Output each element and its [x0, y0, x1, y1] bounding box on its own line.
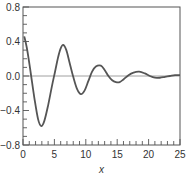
tick-labels: 0510152025−0.8−0.40.00.40.8 [0, 2, 186, 161]
chart: 0510152025−0.8−0.40.00.40.8 x [0, 0, 188, 179]
x-tick-label: 0 [20, 149, 26, 160]
y-tick-label: −0.4 [0, 105, 20, 116]
x-tick-label: 10 [80, 149, 92, 160]
x-tick-label: 15 [112, 149, 124, 160]
series [24, 36, 180, 126]
y-tick-label: 0.4 [6, 36, 20, 47]
x-axis-label: x [98, 164, 105, 175]
x-tick-label: 5 [52, 149, 58, 160]
x-tick-label: 20 [143, 149, 155, 160]
y-tick-label: 0.8 [6, 2, 20, 13]
series-line [24, 36, 180, 126]
y-tick-label: −0.8 [0, 140, 20, 151]
x-tick-label: 25 [174, 149, 186, 160]
plot-frame [23, 7, 180, 145]
y-tick-label: 0.0 [6, 71, 20, 82]
